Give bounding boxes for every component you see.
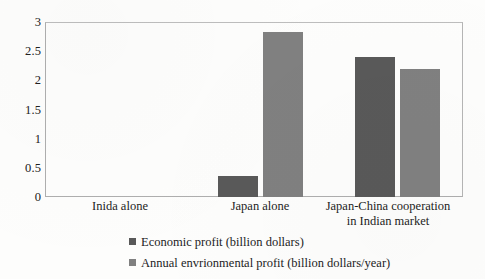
y-axis-tick-2: 2 bbox=[0, 74, 41, 86]
x-axis-label-inida-line1: Inida alone bbox=[45, 199, 195, 214]
y-axis-tick-1-5: 1.5 bbox=[0, 104, 41, 116]
y-axis: 3 2.5 2 1.5 1 0.5 0 bbox=[0, 22, 41, 197]
x-axis-label-cooperation-line1: Japan-China cooperation bbox=[308, 199, 468, 214]
y-axis-tick-2-5: 2.5 bbox=[0, 45, 41, 57]
y-axis-tick-1: 1 bbox=[0, 133, 41, 145]
x-axis-label-inida: Inida alone bbox=[45, 199, 195, 214]
x-axis: Inida alone Japan alone Japan-China coop… bbox=[45, 199, 463, 231]
y-axis-tick-3: 3 bbox=[0, 16, 41, 28]
legend-swatch-icon-environmental bbox=[129, 259, 136, 266]
legend: Economic profit (billion dollars) Annual… bbox=[0, 231, 485, 273]
y-axis-tick-0: 0 bbox=[0, 191, 41, 203]
legend-label-economic: Economic profit (billion dollars) bbox=[141, 235, 304, 249]
bar-cooperation-environmental bbox=[400, 69, 440, 197]
legend-item-economic[interactable]: Economic profit (billion dollars) bbox=[0, 231, 485, 252]
bar-cooperation-economic bbox=[355, 57, 395, 197]
bars-layer bbox=[46, 23, 462, 197]
bar-japan-environmental bbox=[263, 32, 303, 197]
legend-swatch-icon-economic bbox=[129, 238, 136, 245]
legend-label-environmental: Annual envrionmental profit (billion dol… bbox=[141, 256, 390, 270]
chart-screenshot: 3 2.5 2 1.5 1 0.5 0 Inida alone Japan al… bbox=[0, 0, 485, 279]
legend-item-environmental[interactable]: Annual envrionmental profit (billion dol… bbox=[0, 252, 485, 273]
bar-japan-economic bbox=[218, 176, 258, 197]
x-axis-label-cooperation: Japan-China cooperation in Indian market bbox=[308, 199, 468, 228]
x-axis-label-cooperation-line2: in Indian market bbox=[308, 214, 468, 229]
y-axis-tick-0-5: 0.5 bbox=[0, 162, 41, 174]
